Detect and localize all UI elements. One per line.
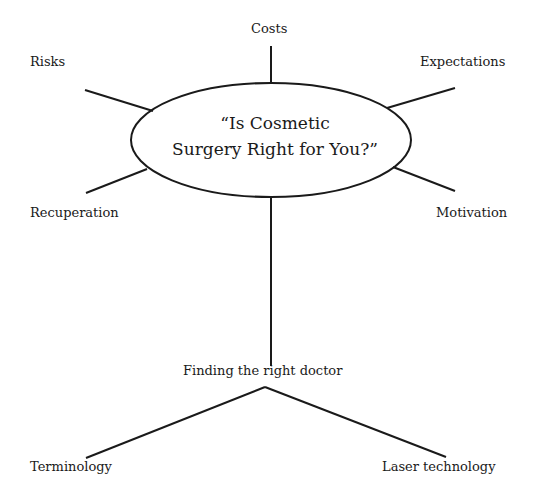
connector-recuperation [86,169,147,193]
label-finding-right-doctor: Finding the right doctor [183,364,342,377]
diagram-lines [0,0,538,503]
connector-motivation [393,167,455,191]
label-costs: Costs [251,22,287,35]
connector-laser-technology [265,387,446,457]
connector-terminology [86,387,265,458]
mind-map-diagram: “Is Cosmetic Surgery Right for You?” Cos… [0,0,538,503]
connector-risks [85,90,153,111]
label-motivation: Motivation [436,206,507,219]
label-terminology: Terminology [30,460,112,473]
central-topic-line1: “Is Cosmetic [160,110,390,136]
central-topic-line2: Surgery Right for You?” [160,136,390,162]
label-risks: Risks [30,55,65,68]
label-expectations: Expectations [420,55,505,68]
label-recuperation: Recuperation [30,206,119,219]
connector-expectations [387,88,455,108]
label-laser-technology: Laser technology [382,460,496,473]
central-topic: “Is Cosmetic Surgery Right for You?” [160,110,390,162]
